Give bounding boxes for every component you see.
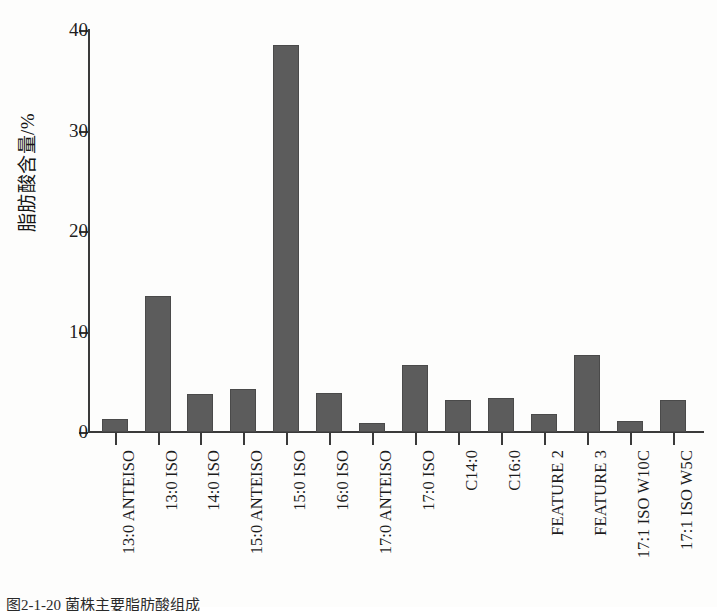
y-axis-label: 脂肪酸含量/% [18, 113, 37, 232]
x-axis-tick [329, 433, 331, 445]
figure-caption: 图2-1-20 菌株主要脂肪酸组成 [6, 597, 200, 611]
x-axis-tick-label: FEATURE 2 [550, 450, 567, 536]
bar [359, 423, 385, 432]
x-axis-tick [158, 433, 160, 445]
bar [445, 400, 471, 432]
y-axis-tick-label: 30 [69, 121, 88, 140]
y-axis-tick-label: 0 [79, 422, 89, 441]
x-axis-tick-label: 13:0 ISO [164, 450, 181, 511]
x-axis-tick [501, 433, 503, 445]
x-axis-tick [544, 433, 546, 445]
bar [273, 45, 299, 432]
x-axis-tick-label: 17:1 ISO W10C [636, 450, 653, 558]
plot-area: 010203040 [88, 30, 702, 432]
x-axis-tick [115, 433, 117, 445]
x-axis-tick [673, 433, 675, 445]
x-axis-tick-label: FEATURE 3 [593, 450, 610, 536]
x-axis-tick-label: 15:0 ISO [292, 450, 309, 511]
x-axis-tick [243, 433, 245, 445]
bar [488, 398, 514, 432]
bar [660, 400, 686, 432]
bar [145, 296, 171, 432]
x-axis-tick [286, 433, 288, 445]
x-axis-tick [458, 433, 460, 445]
x-axis-tick-label: 17:0 ANTEISO [378, 450, 395, 554]
x-axis-tick [415, 433, 417, 445]
bar [187, 394, 213, 432]
y-axis-tick-label: 20 [69, 221, 88, 240]
x-axis-tick [372, 433, 374, 445]
bar [102, 419, 128, 432]
y-axis-tick-label: 40 [69, 20, 88, 39]
x-axis-tick-label: 17:1 ISO W5C [679, 450, 696, 550]
x-axis-tick-label: 17:0 ISO [421, 450, 438, 511]
x-axis-tick-label: 14:0 ISO [206, 450, 223, 511]
bar [617, 421, 643, 432]
y-axis-tick-label: 10 [69, 322, 88, 341]
bar [574, 355, 600, 432]
bar [402, 365, 428, 432]
x-axis-tick-label: 13:0 ANTEISO [121, 450, 138, 554]
x-axis-tick [630, 433, 632, 445]
x-axis-tick-label: C14:0 [464, 450, 481, 491]
x-axis-tick [587, 433, 589, 445]
x-axis-tick-label: 16:0 ISO [335, 450, 352, 511]
x-axis-tick-label: C16:0 [507, 450, 524, 491]
bar [230, 389, 256, 432]
x-axis-tick [200, 433, 202, 445]
bar [531, 414, 557, 432]
x-axis-tick-label: 15:0 ANTEISO [249, 450, 266, 554]
bar [316, 393, 342, 432]
